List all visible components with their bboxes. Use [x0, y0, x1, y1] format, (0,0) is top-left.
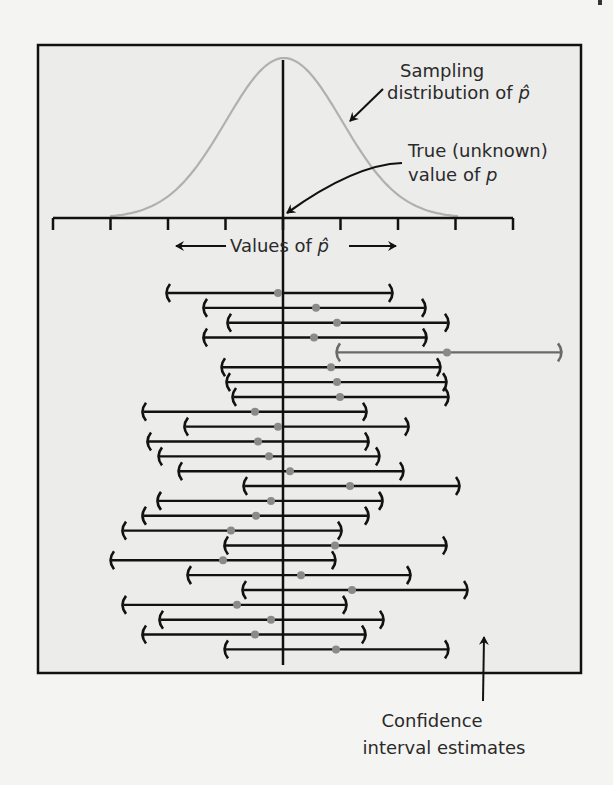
point-estimate-dot: [346, 482, 354, 490]
point-estimate-dot: [333, 319, 341, 327]
point-estimate-dot: [251, 631, 259, 639]
true-value-label-line2: value of p: [408, 164, 497, 185]
axis-label: Values of p̂: [230, 235, 329, 256]
point-estimate-dot: [312, 304, 320, 312]
ci-label-line2: interval estimates: [363, 737, 526, 758]
point-estimate-dot: [274, 423, 282, 431]
point-estimate-dot: [267, 616, 275, 624]
point-estimate-dot: [227, 527, 235, 535]
point-estimate-dot: [267, 497, 275, 505]
true-value-label-line1: True (unknown): [407, 140, 548, 161]
point-estimate-dot: [297, 571, 305, 579]
ci-pointer-arrow-icon: [483, 637, 484, 701]
point-estimate-dot: [331, 541, 339, 549]
confidence-interval-diagram: Values of p̂ Sampling distribution of p̂…: [0, 0, 613, 785]
point-estimate-dot: [233, 601, 241, 609]
point-estimate-dot: [333, 378, 341, 386]
point-estimate-dot: [327, 363, 335, 371]
point-estimate-dot: [219, 556, 227, 564]
ci-label-line1: Confidence: [381, 710, 482, 731]
sampling-label-line2: distribution of p̂: [387, 82, 530, 103]
sampling-label-line1: Sampling: [400, 60, 484, 81]
point-estimate-dot: [336, 393, 344, 401]
point-estimate-dot: [443, 348, 451, 356]
point-estimate-dot: [348, 586, 356, 594]
point-estimate-dot: [265, 452, 273, 460]
point-estimate-dot: [252, 512, 260, 520]
point-estimate-dot: [332, 645, 340, 653]
point-estimate-dot: [286, 467, 294, 475]
point-estimate-dot: [254, 438, 262, 446]
point-estimate-dot: [274, 289, 282, 297]
point-estimate-dot: [251, 408, 259, 416]
point-estimate-dot: [310, 334, 318, 342]
